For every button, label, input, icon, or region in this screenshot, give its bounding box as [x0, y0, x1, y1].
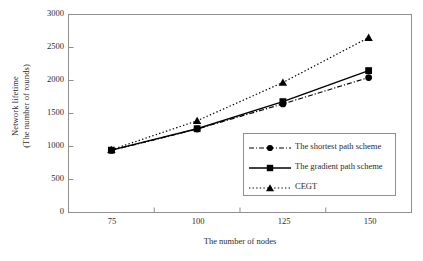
legend-swatch-gradient-path: [249, 160, 291, 172]
x-axis-tick-marks: [154, 208, 326, 213]
legend: The shortest path scheme The gradient pa…: [243, 133, 396, 196]
legend-item-gradient-path: The gradient path scheme: [249, 158, 383, 174]
legend-label-shortest-path: The shortest path scheme: [295, 141, 381, 151]
chart-figure: Network lifetime (The number of rounds) …: [0, 0, 423, 261]
legend-label-cegt: CEGT: [295, 181, 317, 191]
legend-swatch-shortest-path: [249, 140, 291, 152]
y-axis-tick-marks: [69, 15, 74, 213]
legend-label-gradient-path: The gradient path scheme: [295, 161, 383, 171]
data-point: [279, 78, 287, 85]
legend-swatch-cegt: [249, 180, 291, 192]
data-point: [193, 117, 201, 124]
legend-item-shortest-path: The shortest path scheme: [249, 138, 381, 154]
data-point: [365, 74, 372, 81]
data-point: [194, 125, 201, 132]
legend-item-cegt: CEGT: [249, 178, 317, 194]
data-point: [279, 98, 286, 105]
data-point: [365, 67, 372, 74]
plot-area: [0, 0, 423, 261]
data-point: [364, 34, 372, 41]
